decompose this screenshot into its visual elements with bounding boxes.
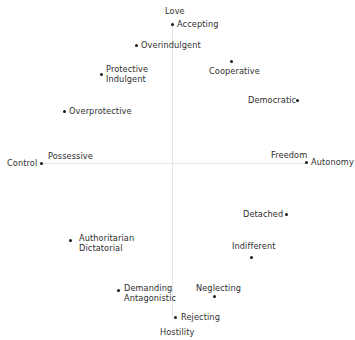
hostility-label: Hostility (160, 327, 194, 337)
neglecting-label: Neglecting (196, 283, 241, 293)
antagonistic-label: Antagonistic (124, 293, 176, 303)
rejecting-label: Rejecting (181, 312, 220, 322)
cooperative-dot (230, 60, 233, 63)
indulgent-label: Indulgent (106, 74, 146, 84)
neglecting-dot (213, 295, 216, 298)
horizontal-axis-line (43, 163, 305, 164)
indifferent-label: Indifferent (232, 241, 276, 251)
authoritarian-label: Authoritarian (79, 233, 134, 243)
detached-label: Detached (243, 209, 283, 219)
love-label: Love (165, 6, 185, 16)
autonomy-label: Autonomy (311, 157, 354, 167)
overprotective-label: Overprotective (69, 106, 132, 116)
accepting-label: Accepting (177, 19, 218, 29)
detached-dot (285, 213, 288, 216)
possessive-label: Possessive (48, 151, 93, 161)
control-label: Control (7, 158, 37, 168)
demanding-antagonistic-dot (117, 289, 120, 292)
authoritarian-dictatorial-dot (69, 239, 72, 242)
overindulgent-label: Overindulgent (141, 40, 201, 50)
protective-label: Protective (106, 64, 148, 74)
overprotective-dot (63, 110, 66, 113)
vertical-axis-line (172, 22, 173, 318)
overindulgent-dot (135, 44, 138, 47)
protective-indulgent-dot (100, 73, 103, 76)
democratic-label: Democratic (248, 95, 296, 105)
rejecting-dot (174, 316, 177, 319)
demanding-label: Demanding (124, 283, 172, 293)
dictatorial-label: Dictatorial (79, 243, 123, 253)
freedom-label: Freedom (271, 150, 307, 160)
control-dot (40, 162, 43, 165)
accepting-dot (171, 23, 174, 26)
autonomy-dot (305, 161, 308, 164)
cooperative-label: Cooperative (209, 66, 260, 76)
indifferent-dot (250, 256, 253, 259)
democratic-dot (296, 99, 299, 102)
